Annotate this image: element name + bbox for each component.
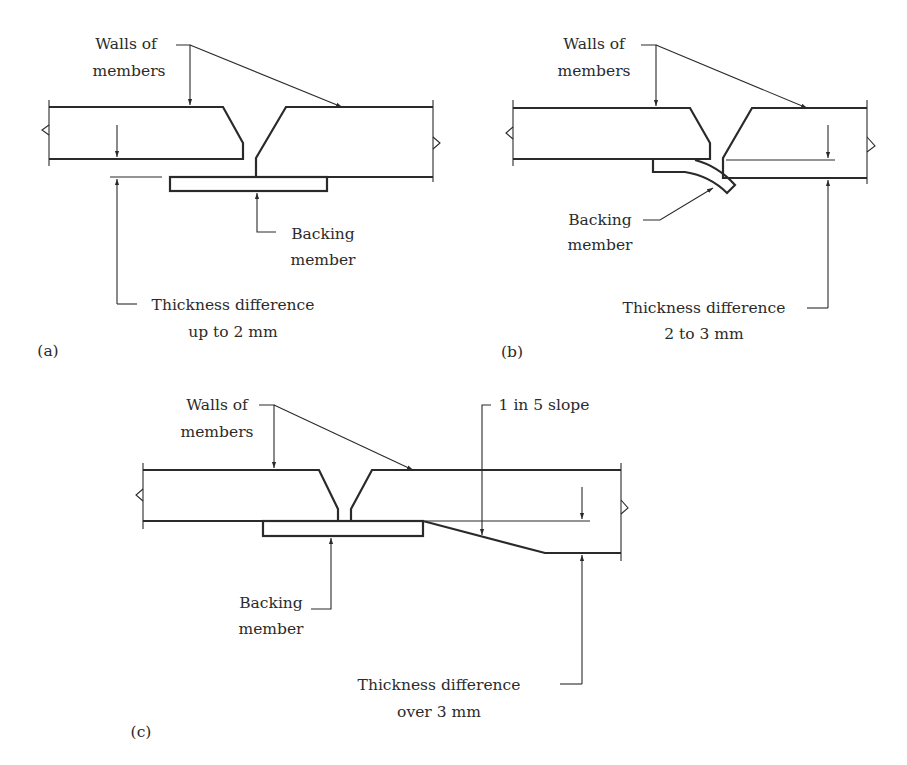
right-wall-member: [256, 100, 440, 182]
backing-plate: [263, 521, 423, 536]
thickness-label-line2: up to 2 mm: [188, 323, 278, 341]
walls-label-line1: Walls of: [95, 35, 158, 53]
panel-b: Walls of members Backing member Thicknes…: [501, 35, 875, 361]
walls-label-line2: members: [92, 62, 165, 80]
left-wall-member: [136, 463, 338, 529]
backing-label-line1: Backing: [568, 211, 632, 229]
left-wall-member: [42, 100, 243, 166]
panel-tag: (b): [501, 343, 523, 361]
break-line-icon: [433, 137, 440, 149]
walls-label-line1: Walls of: [563, 35, 626, 53]
backing-label-line1: Backing: [291, 225, 355, 243]
walls-label-line2: members: [180, 423, 253, 441]
thickness-label-line1: Thickness difference: [358, 676, 521, 694]
break-line-icon: [867, 137, 875, 152]
thickness-label-line2: 2 to 3 mm: [664, 325, 744, 343]
backing-plate: [170, 177, 327, 191]
walls-leader-arrow: [190, 45, 342, 107]
break-line-icon: [506, 127, 513, 139]
backing-leader-arrow: [257, 193, 276, 232]
right-wall-member: [351, 463, 628, 561]
walls-leader-arrow: [641, 45, 656, 106]
backing-label-line2: member: [238, 620, 304, 638]
panel-a: Walls of members Backing member Thicknes…: [37, 35, 440, 360]
panel-tag: (a): [37, 342, 58, 360]
walls-leader-arrow: [274, 405, 413, 470]
thickness-label-line1: Thickness difference: [623, 299, 786, 317]
panel-tag: (c): [131, 723, 152, 741]
walls-leader-arrow: [259, 405, 274, 468]
butt-weld-thickness-transition-diagram: Walls of members Backing member Thicknes…: [0, 0, 907, 765]
walls-leader-arrow: [656, 45, 807, 108]
break-line-icon: [42, 125, 49, 135]
backing-label-line2: member: [290, 251, 356, 269]
walls-leader-arrow: [176, 45, 190, 105]
thickness-label-line1: Thickness difference: [152, 296, 315, 314]
panel-c: Walls of members 1 in 5 slope Backing me…: [131, 396, 628, 741]
break-line-icon: [621, 500, 628, 514]
backing-label-line2: member: [567, 236, 633, 254]
left-wall-member: [506, 100, 710, 166]
thickness-label-line2: over 3 mm: [397, 703, 481, 721]
break-line-icon: [136, 489, 143, 501]
backing-leader-arrow: [311, 538, 331, 609]
slope-label: 1 in 5 slope: [499, 396, 590, 414]
walls-label-line2: members: [557, 62, 630, 80]
right-wall-member: [723, 100, 875, 184]
walls-label-line1: Walls of: [186, 396, 249, 414]
backing-leader-arrow: [643, 188, 713, 220]
backing-label-line1: Backing: [239, 594, 303, 612]
